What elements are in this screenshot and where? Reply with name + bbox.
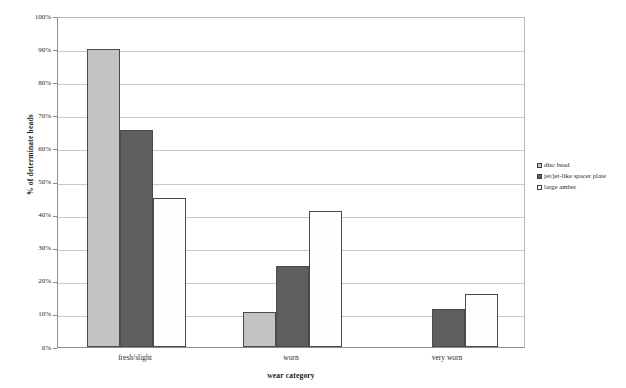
bar-1-1[interactable] [276, 266, 309, 347]
x-tick-label-2: very worn [392, 353, 502, 362]
legend-item-1[interactable]: jet/jet-like spacer plate [537, 172, 623, 179]
y-tick-label: 90% [22, 46, 51, 54]
legend-item-label: disc bead [544, 161, 569, 168]
plot-area [57, 17, 525, 348]
chart-legend: disc beadjet/jet-like spacer platelarge … [537, 161, 623, 194]
series-1-swatch [537, 174, 542, 179]
legend-item-label: jet/jet-like spacer plate [544, 172, 606, 179]
bar-2-2[interactable] [465, 294, 498, 347]
x-tick-label-1: worn [236, 353, 346, 362]
gridline [58, 84, 524, 85]
legend-item-label: large amber [544, 183, 576, 190]
bar-1-2[interactable] [432, 309, 465, 347]
series-0-swatch [537, 163, 542, 168]
x-tick-label-0: fresh/slight [80, 353, 190, 362]
y-tick-label: 100% [22, 13, 51, 21]
y-tick-label: 10% [22, 310, 51, 318]
y-tick-label: 20% [22, 277, 51, 285]
bar-0-0[interactable] [87, 49, 120, 347]
y-tick-label: 30% [22, 244, 51, 252]
bar-0-1[interactable] [243, 312, 276, 347]
y-tick-label: 80% [22, 79, 51, 87]
legend-item-0[interactable]: disc bead [537, 161, 623, 168]
x-axis-title: wear category [57, 371, 525, 380]
gridline [58, 51, 524, 52]
y-tick-label: 60% [22, 145, 51, 153]
bar-chart: % of determinate beads 0%10%20%30%40%50%… [0, 0, 626, 388]
legend-item-2[interactable]: large amber [537, 183, 623, 190]
y-tick-label: 40% [22, 211, 51, 219]
y-tick-label: 50% [22, 178, 51, 186]
gridline [58, 117, 524, 118]
y-tick-label: 0% [22, 344, 51, 352]
y-tick-mark [53, 348, 57, 349]
y-tick-label: 70% [22, 112, 51, 120]
bar-2-0[interactable] [153, 198, 186, 347]
bar-2-1[interactable] [309, 211, 342, 347]
series-2-swatch [537, 185, 542, 190]
bar-1-0[interactable] [120, 130, 153, 347]
